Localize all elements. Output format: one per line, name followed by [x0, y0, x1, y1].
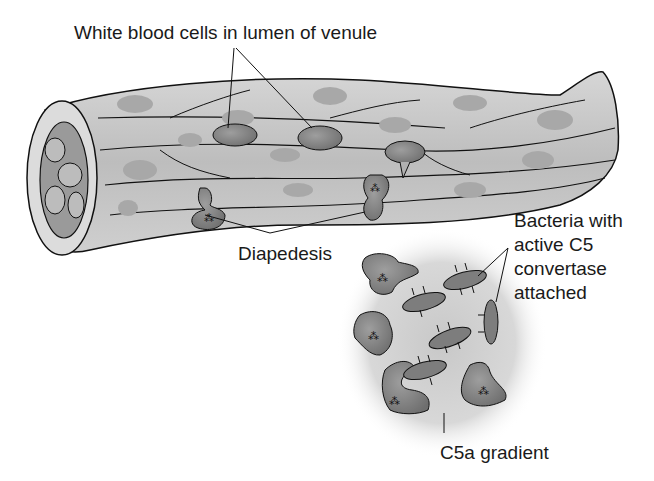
- svg-text:⁂: ⁂: [368, 330, 379, 343]
- bacteria-label-line2: active C5: [514, 234, 593, 256]
- svg-text:⁂: ⁂: [377, 272, 388, 285]
- venule-cross-section: [27, 101, 97, 255]
- svg-text:⁂: ⁂: [389, 395, 400, 408]
- c5a-gradient-label: C5a gradient: [440, 442, 549, 464]
- bacteria-label-line3: convertase: [514, 258, 607, 280]
- wbc-in-lumen-3: [385, 141, 425, 163]
- bacteria-label-line4: attached: [514, 282, 587, 304]
- svg-text:⁂: ⁂: [370, 183, 380, 194]
- wbc-in-lumen-1: [213, 124, 257, 146]
- svg-text:⁂: ⁂: [478, 385, 489, 398]
- bacteria-label-line1: Bacteria with: [514, 210, 623, 232]
- wbc-label: White blood cells in lumen of venule: [74, 22, 377, 44]
- diapedesis-label: Diapedesis: [238, 243, 332, 265]
- wbc-in-lumen-2: [298, 126, 342, 150]
